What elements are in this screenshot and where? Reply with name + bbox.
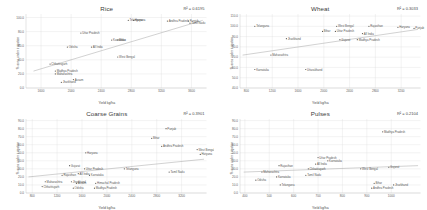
svg-text:1600: 1600	[79, 194, 86, 198]
svg-text:Haryana: Haryana	[202, 152, 213, 156]
svg-text:40.0: 40.0	[231, 86, 237, 90]
scatter-svg-wheat: 40.050.060.070.080.090.0100.0110.0800120…	[214, 0, 427, 105]
svg-text:Gujarat: Gujarat	[71, 164, 80, 168]
y-axis-label-coarse-grains: % area under irrigation	[16, 141, 20, 173]
svg-text:1200: 1200	[268, 89, 275, 93]
svg-text:Assam: Assam	[78, 181, 87, 185]
x-axis-label-pulses: Yield kg/ha	[214, 206, 427, 210]
svg-text:20.0: 20.0	[18, 72, 24, 76]
svg-text:Rajasthan: Rajasthan	[63, 173, 76, 177]
svg-text:800: 800	[243, 89, 248, 93]
svg-text:Karnataka: Karnataka	[277, 175, 290, 179]
svg-text:Tamil Nadu: Tamil Nadu	[307, 173, 321, 177]
svg-text:80.0: 80.0	[231, 127, 237, 131]
svg-text:Telangana: Telangana	[281, 183, 294, 187]
svg-text:Madhya Pradesh: Madhya Pradesh	[358, 38, 380, 42]
r2-annotation-rice: R² = 0.6195	[183, 6, 204, 11]
plot-area-coarse-grains: 0.010.020.030.040.050.060.070.080.090.08…	[0, 105, 214, 210]
chart-grid: 0.020.040.060.080.0100.01600200024002800…	[0, 0, 427, 210]
svg-text:Chhattisgarh: Chhattisgarh	[51, 62, 67, 66]
svg-text:Maharashtra: Maharashtra	[263, 170, 279, 174]
svg-text:Tamil Nadu: Tamil Nadu	[191, 21, 205, 25]
svg-text:Bihar: Bihar	[323, 29, 330, 33]
svg-text:Jharkhand: Jharkhand	[287, 37, 301, 41]
svg-text:3200: 3200	[397, 89, 404, 93]
svg-text:West Bengal: West Bengal	[362, 167, 378, 171]
svg-text:50.0: 50.0	[231, 76, 237, 80]
svg-text:2800: 2800	[371, 89, 378, 93]
svg-text:Andhra Pradesh: Andhra Pradesh	[169, 19, 190, 23]
svg-text:Gujarat: Gujarat	[341, 38, 350, 42]
svg-text:Telangana: Telangana	[126, 167, 139, 171]
panel-title-pulses: Pulses	[214, 110, 427, 117]
svg-text:700: 700	[315, 194, 320, 198]
svg-text:Andhra Pradesh: Andhra Pradesh	[163, 144, 184, 148]
svg-text:Tamil Nadu: Tamil Nadu	[170, 170, 184, 174]
svg-text:2000: 2000	[103, 194, 110, 198]
svg-text:Punjab: Punjab	[167, 127, 176, 131]
svg-text:Haryana: Haryana	[135, 18, 146, 22]
y-axis-label-pulses: % area under irrigation	[230, 141, 234, 173]
svg-text:10.0: 10.0	[231, 183, 237, 187]
svg-text:0.0: 0.0	[233, 191, 238, 195]
svg-text:Rajasthan: Rajasthan	[370, 24, 383, 28]
plot-area-wheat: 40.050.060.070.080.090.0100.0110.0800120…	[214, 0, 427, 105]
svg-text:1600: 1600	[38, 89, 45, 93]
svg-text:Madhya Pradesh: Madhya Pradesh	[383, 130, 405, 134]
svg-text:Andhra Pradesh: Andhra Pradesh	[373, 186, 394, 190]
svg-text:Telangana: Telangana	[256, 24, 269, 28]
svg-text:600: 600	[291, 194, 296, 198]
svg-text:Odisha: Odisha	[69, 45, 78, 49]
svg-text:Jharkhand: Jharkhand	[63, 80, 77, 84]
svg-text:Assam: Assam	[75, 78, 84, 82]
svg-text:Karnataka: Karnataka	[256, 68, 269, 72]
svg-text:Odisha: Odisha	[257, 178, 266, 182]
svg-text:90.0: 90.0	[18, 119, 24, 123]
svg-text:2800: 2800	[128, 89, 135, 93]
svg-text:1200: 1200	[54, 194, 61, 198]
svg-text:100.0: 100.0	[230, 24, 238, 28]
plot-area-pulses: 0.010.020.030.040.050.060.070.080.090.04…	[214, 105, 427, 210]
svg-text:90.0: 90.0	[231, 119, 237, 123]
svg-text:3200: 3200	[158, 89, 165, 93]
svg-text:All India: All India	[363, 32, 373, 36]
r2-annotation-wheat: R² = 0.3033	[397, 6, 418, 11]
scatter-svg-pulses: 0.010.020.030.040.050.060.070.080.090.04…	[214, 105, 427, 210]
panel-title-wheat: Wheat	[214, 5, 427, 12]
panel-title-coarse-grains: Coarse Grains	[0, 110, 214, 117]
svg-text:Bihar: Bihar	[119, 38, 126, 42]
svg-text:Gujarat: Gujarat	[390, 165, 399, 169]
svg-text:20.0: 20.0	[18, 175, 24, 179]
r2-annotation-coarse-grains: R² = 0.3901	[183, 111, 204, 116]
panel-rice: 0.020.040.060.080.0100.01600200024002800…	[0, 0, 214, 105]
svg-text:Bihar: Bihar	[375, 181, 382, 185]
svg-text:2000: 2000	[320, 89, 327, 93]
svg-text:2400: 2400	[128, 194, 135, 198]
svg-text:Rajasthan: Rajasthan	[280, 164, 293, 168]
svg-text:10.0: 10.0	[18, 183, 24, 187]
svg-text:Karnataka: Karnataka	[91, 173, 104, 177]
scatter-svg-rice: 0.020.040.060.080.0100.01600200024002800…	[0, 0, 214, 105]
svg-text:900: 900	[364, 194, 369, 198]
svg-text:Punjab: Punjab	[415, 26, 424, 30]
svg-text:Uttar Pradesh: Uttar Pradesh	[82, 31, 100, 35]
panel-wheat: 40.050.060.070.080.090.0100.0110.0800120…	[214, 0, 427, 105]
r2-annotation-pulses: R² = 0.2104	[397, 111, 418, 116]
svg-text:70.0: 70.0	[18, 135, 24, 139]
svg-text:Chhattisgarh: Chhattisgarh	[43, 185, 59, 189]
svg-text:Maharashtra: Maharashtra	[47, 180, 63, 184]
svg-text:Uttarakhand: Uttarakhand	[307, 68, 323, 72]
svg-text:110.0: 110.0	[230, 14, 238, 18]
svg-text:0.0: 0.0	[20, 86, 25, 90]
scatter-svg-coarse-grains: 0.010.020.030.040.050.060.070.080.090.08…	[0, 105, 214, 210]
svg-text:3600: 3600	[188, 89, 195, 93]
panel-pulses: 0.010.020.030.040.050.060.070.080.090.04…	[214, 105, 427, 210]
svg-text:3200: 3200	[178, 194, 185, 198]
plot-area-rice: 0.020.040.060.080.0100.01600200024002800…	[0, 0, 214, 105]
svg-text:Karnataka: Karnataka	[329, 159, 342, 163]
svg-text:Uttar Pradesh: Uttar Pradesh	[86, 167, 104, 171]
svg-text:West Bengal: West Bengal	[119, 55, 135, 59]
svg-text:West Bengal: West Bengal	[198, 148, 213, 152]
svg-text:All India: All India	[80, 172, 90, 176]
svg-text:2000: 2000	[68, 89, 75, 93]
